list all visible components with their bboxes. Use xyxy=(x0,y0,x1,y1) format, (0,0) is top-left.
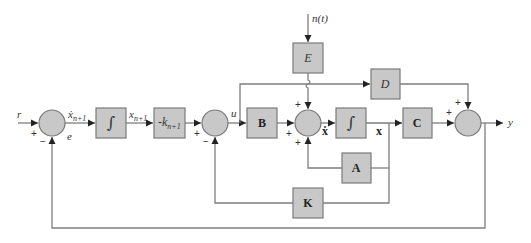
svg-text:xn+1: xn+1 xyxy=(128,108,147,123)
xi-subscript: n+1 xyxy=(134,114,147,123)
gain-k-block: -kn+1 xyxy=(154,108,185,138)
d-label: D xyxy=(380,77,390,91)
k-block: K xyxy=(293,188,323,218)
gain-k-subscript: n+1 xyxy=(167,122,180,131)
sum-junction-output xyxy=(455,110,481,136)
reference-label: r xyxy=(17,108,22,120)
b-block: B xyxy=(247,108,277,138)
sign-sum3-e: + xyxy=(295,99,301,110)
sign-sum1-ref: + xyxy=(31,128,37,139)
sign-sum4-c: + xyxy=(446,107,452,118)
state-dot-label: ẋ xyxy=(322,124,328,138)
error-label: e xyxy=(67,130,72,142)
sign-sum1-fb: − xyxy=(40,136,46,147)
e-block: E xyxy=(293,43,323,73)
sign-sum2-in: + xyxy=(194,128,200,139)
sum-junction-state xyxy=(295,110,321,136)
e-out-line xyxy=(306,73,310,109)
a-out-line xyxy=(308,137,342,168)
e-label: E xyxy=(303,51,312,65)
sign-sum2-fb: − xyxy=(203,136,209,147)
sign-sum4-d: + xyxy=(455,97,461,108)
control-label: u xyxy=(231,107,237,119)
sum-junction-error xyxy=(39,110,65,136)
disturbance-label: n(t) xyxy=(312,12,328,25)
integrator2-block: ∫ xyxy=(336,108,366,138)
integrator1-block: ∫ xyxy=(96,108,126,138)
c-block: C xyxy=(403,108,432,138)
output-feedback-line xyxy=(52,123,485,228)
state-label: x xyxy=(376,124,382,138)
a-label: A xyxy=(352,161,361,175)
svg-text:ẋn+1: ẋn+1 xyxy=(67,108,86,123)
integral-icon: ∫ xyxy=(107,113,115,132)
d-block: D xyxy=(371,69,400,99)
sign-sum3-b: + xyxy=(286,128,292,139)
xi-dot-subscript: n+1 xyxy=(73,114,86,123)
sign-sum3-a: + xyxy=(295,137,301,148)
k-feedback-line xyxy=(215,137,293,203)
b-label: B xyxy=(258,116,266,130)
block-diagram: ∫ -kn+1 B E ∫ A C D K r e ẋn+1 xn+1 u n(… xyxy=(0,0,531,243)
sum-junction-control xyxy=(202,110,228,136)
output-label: y xyxy=(507,116,513,128)
k-label: K xyxy=(303,196,313,210)
integral-icon: ∫ xyxy=(347,113,355,132)
a-block: A xyxy=(342,153,371,183)
c-label: C xyxy=(413,116,422,130)
